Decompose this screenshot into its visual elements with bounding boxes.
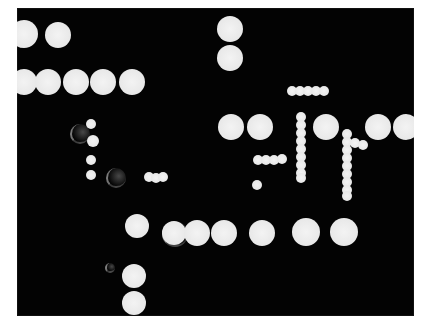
small-dot	[87, 135, 99, 147]
large-dot	[217, 16, 243, 42]
large-dot	[330, 218, 358, 246]
large-dot	[119, 69, 145, 95]
large-dot	[218, 114, 244, 140]
small-dot	[158, 172, 168, 182]
large-dot	[122, 291, 146, 315]
small-dot	[86, 155, 96, 165]
large-dot	[393, 114, 414, 140]
large-dot	[247, 114, 273, 140]
small-dot	[358, 140, 368, 150]
large-dot	[90, 69, 116, 95]
large-dot	[63, 69, 89, 95]
large-dot	[17, 69, 37, 95]
large-dot	[125, 214, 149, 238]
ghost-reflection	[105, 263, 115, 273]
large-dot	[365, 114, 391, 140]
small-dot	[86, 170, 96, 180]
large-dot	[249, 220, 275, 246]
large-dot	[211, 220, 237, 246]
small-dot	[296, 173, 306, 183]
small-dot	[86, 119, 96, 129]
photo-frame	[17, 8, 414, 316]
large-dot	[162, 221, 186, 245]
small-dot	[342, 191, 352, 201]
small-dot	[319, 86, 329, 96]
large-dot	[45, 22, 71, 48]
large-dot	[17, 20, 38, 48]
large-dot	[122, 264, 146, 288]
large-dot	[35, 69, 61, 95]
small-dot	[277, 154, 287, 164]
large-dot	[313, 114, 339, 140]
large-dot	[184, 220, 210, 246]
large-dot	[217, 45, 243, 71]
ghost-reflection	[106, 168, 126, 188]
small-dot	[252, 180, 262, 190]
large-dot	[292, 218, 320, 246]
